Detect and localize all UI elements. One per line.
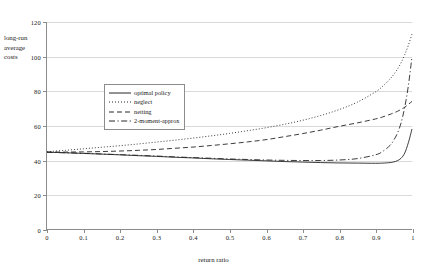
x-tick-label: 0.1 [79,234,88,241]
x-tick-mark [120,229,121,233]
legend-item-label: neglect [134,98,152,106]
series-line-2-moment-approx [47,57,412,161]
x-tick-label: 0.2 [116,234,125,241]
x-tick-mark [376,229,377,233]
x-tick-label: 0.6 [262,234,271,241]
y-tick-label: 20 [34,192,41,199]
y-tick-label: 60 [34,123,41,130]
y-tick-label: 120 [31,19,41,26]
legend-item: neglect [109,98,180,108]
legend-line-swatch [109,108,131,116]
x-tick-label: 0.5 [226,234,235,241]
x-tick-mark [193,229,194,233]
legend-item: netting [109,107,180,117]
series-line-netting [47,101,412,152]
y-tick-label: 100 [31,53,41,60]
legend-item-label: netting [134,108,152,116]
plot-area: 020406080100120 00.10.20.30.40.50.60.70.… [46,22,412,230]
y-tick-label: 80 [34,88,41,95]
x-tick-mark [303,229,304,233]
x-tick-label: 0.7 [299,234,308,241]
x-tick-label: 1 [411,234,414,241]
data-curves [47,22,412,229]
legend-line-swatch [109,89,131,97]
y-tick-label: 40 [34,157,41,164]
legend-item: optimal policy [109,88,180,98]
chart-figure: long-run average costs 020406080100120 0… [0,0,427,272]
x-tick-mark [267,229,268,233]
y-axis-title-line-2: average [4,43,46,53]
x-tick-label: 0.4 [189,234,198,241]
legend-item-label: optimal policy [134,89,171,97]
legend-item-label: 2-moment-approx [134,117,179,125]
legend-item: 2-moment-approx [109,117,180,127]
x-tick-label: 0.9 [372,234,381,241]
y-axis-title-line-1: long-run [4,33,46,43]
legend: optimal policyneglectnetting2-moment-app… [104,84,185,130]
x-tick-label: 0.3 [152,234,161,241]
x-tick-mark [230,229,231,233]
legend-line-swatch [109,117,131,125]
x-tick-mark [47,229,48,233]
x-tick-mark [84,229,85,233]
x-tick-mark [157,229,158,233]
x-tick-label: 0.8 [335,234,344,241]
y-tick-label: 0 [38,227,41,234]
x-tick-mark [413,229,414,233]
x-tick-label: 0 [45,234,48,241]
legend-line-swatch [109,98,131,106]
series-line-optimal-policy [47,129,412,163]
x-axis-title: return ratio [0,256,427,263]
x-tick-mark [340,229,341,233]
series-line-neglect [47,34,412,152]
